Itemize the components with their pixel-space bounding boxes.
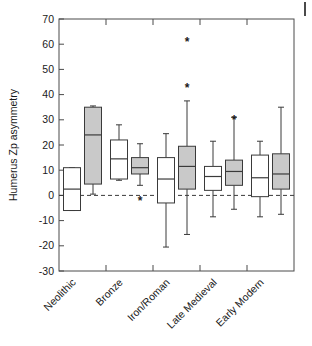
boxplot-open-bronze [111,125,128,180]
box [111,140,128,179]
x-axis-category-label: Early Modern [213,276,266,329]
box [226,160,243,185]
y-axis-tick-label: 10 [42,164,54,176]
y-axis-tick-label: -10 [39,214,54,226]
outlier-marker: * [185,35,190,49]
y-axis-tick-label: 70 [42,13,54,25]
x-axis-category-label: Iron/Roman [125,276,172,323]
boxplot-shaded-early-modern [273,107,290,214]
outlier-marker: * [138,194,143,208]
boxplot-open-late-medieval [205,141,222,217]
box [158,158,175,203]
boxplot-figure: 706050403020100-10-20-30Humerus Zp asymm… [0,0,312,346]
box [85,107,102,184]
x-axis-category-label: Late Medieval [164,276,219,331]
y-axis-tick-label: 50 [42,63,54,75]
x-axis-category-label: Neolithic [41,276,78,313]
outlier-marker: * [185,81,190,95]
boxplot-open-iron-roman [158,134,175,247]
boxplot-shaded-bronze [132,144,149,186]
box [132,158,149,174]
y-axis-tick-label: -20 [39,239,54,251]
boxplot-shaded-iron-roman [179,101,196,235]
chart-canvas: 706050403020100-10-20-30Humerus Zp asymm… [0,0,312,346]
outlier-marker: * [232,113,237,127]
box [205,166,222,190]
y-axis-title: Humerus Zp asymmetry [7,88,19,201]
y-axis-tick-label: 20 [42,139,54,151]
box [252,155,269,197]
boxplot-open-early-modern [252,141,269,217]
box [273,154,290,189]
y-axis-tick-label: -30 [39,265,54,277]
x-axis-category-label: Bronze [93,276,125,308]
box [179,146,196,189]
y-axis-tick-label: 60 [42,38,54,50]
boxplot-shaded-neolithic [85,106,102,194]
y-axis-tick-label: 0 [48,189,54,201]
boxplot-open-neolithic [64,168,81,211]
y-axis-tick-label: 40 [42,88,54,100]
page-edge-mark-icon [304,2,306,16]
y-axis-tick-label: 30 [42,113,54,125]
